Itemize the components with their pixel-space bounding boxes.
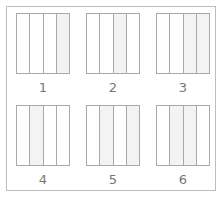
strip (100, 14, 113, 73)
panel-4 (16, 105, 70, 166)
panel-label-6: 6 (156, 173, 210, 187)
panel-label-4: 4 (16, 173, 70, 187)
panel-5 (86, 105, 140, 166)
strip (44, 106, 57, 165)
panel-label-2: 2 (86, 81, 140, 95)
panel-label-1: 1 (16, 81, 70, 95)
strip (170, 14, 183, 73)
strip-shaded (184, 106, 197, 165)
strip (157, 106, 170, 165)
strip (157, 14, 170, 73)
strip (114, 106, 127, 165)
panel-label-5: 5 (86, 173, 140, 187)
panel-2 (86, 13, 140, 74)
panel-label-3: 3 (156, 81, 210, 95)
strip (57, 106, 69, 165)
strip (30, 14, 43, 73)
strip-shaded (30, 106, 43, 165)
strip-shaded (57, 14, 69, 73)
strip (197, 106, 209, 165)
strip-shaded (170, 106, 183, 165)
panel-3 (156, 13, 210, 74)
panel-1 (16, 13, 70, 74)
strip-shaded (184, 14, 197, 73)
panel-6 (156, 105, 210, 166)
strip-shaded (100, 106, 113, 165)
strip (87, 14, 100, 73)
strip-shaded (127, 106, 139, 165)
strip (17, 14, 30, 73)
strip (17, 106, 30, 165)
strip (87, 106, 100, 165)
strip (127, 14, 139, 73)
strip-shaded (114, 14, 127, 73)
strip-shaded (197, 14, 209, 73)
strip (44, 14, 57, 73)
